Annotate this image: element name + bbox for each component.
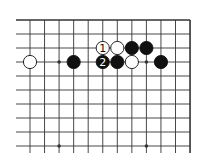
move-number-label: 1 (99, 42, 106, 55)
stones: 12 (23, 41, 167, 69)
white-stone-body (111, 41, 124, 54)
black-stone (140, 41, 153, 54)
black-stone-body (140, 41, 153, 54)
black-stone (111, 55, 124, 68)
move-number-label: 2 (99, 56, 106, 69)
go-board: 12 (0, 0, 204, 165)
black-stone-body (67, 55, 80, 68)
black-stone-body (125, 41, 138, 54)
white-stone (111, 41, 124, 54)
black-stone (125, 41, 138, 54)
black-stone-body (154, 55, 167, 68)
white-stone-body (23, 55, 36, 68)
black-stone-body (111, 55, 124, 68)
white-stone (23, 55, 36, 68)
black-stone (154, 55, 167, 68)
white-stone (125, 55, 138, 68)
star-point (57, 60, 61, 64)
white-stone: 1 (96, 41, 109, 55)
star-point (145, 60, 149, 64)
grid-lines (16, 20, 190, 153)
black-stone (67, 55, 80, 68)
white-stone-body (125, 55, 138, 68)
star-point (57, 144, 61, 148)
black-stone: 2 (96, 55, 109, 69)
star-point (145, 144, 149, 148)
